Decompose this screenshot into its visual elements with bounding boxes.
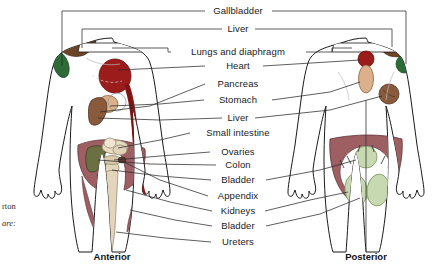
leader-colon (98, 160, 216, 165)
label-bladder-lower: Bladder (219, 221, 256, 231)
label-lungs-diaphragm: Lungs and diaphragm (189, 47, 287, 57)
label-bladder-upper: Bladder (219, 175, 256, 185)
label-small-intestine: Small intestine (204, 128, 271, 138)
margin-note-rton: rton (2, 202, 16, 211)
caption-posterior: Posterior (345, 252, 387, 262)
label-liver-mid: Liver (225, 113, 250, 123)
label-ureters: Ureters (220, 237, 256, 247)
leader-pancreas (100, 84, 205, 112)
label-stomach: Stomach (217, 95, 259, 105)
label-liver-top: Liver (225, 24, 250, 34)
label-kidneys: Kidneys (219, 206, 258, 216)
label-gallbladder: Gallbladder (211, 6, 265, 16)
anatomy-diagram: Gallbladder Liver Lungs and diaphragm He… (0, 0, 447, 269)
caption-anterior: Anterior (94, 252, 131, 262)
leader-gallbladder (62, 11, 406, 66)
leader-small-intestine (118, 133, 190, 148)
leader-ovaries (114, 152, 210, 160)
label-ovaries: Ovaries (219, 147, 256, 157)
label-pancreas: Pancreas (216, 79, 261, 89)
leader-ureters (116, 232, 211, 242)
label-colon: Colon (223, 160, 252, 170)
label-heart: Heart (224, 61, 252, 71)
margin-note-are: are: (2, 219, 16, 228)
label-appendix: Appendix (216, 191, 260, 201)
